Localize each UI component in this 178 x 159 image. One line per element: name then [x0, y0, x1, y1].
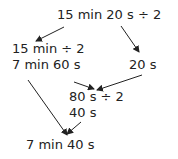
node-top: 15 min 20 s ÷ 2: [57, 7, 161, 22]
arrow-top-to-left: [36, 27, 64, 41]
node-middle-result: 40 s: [69, 105, 96, 120]
arrow-middle-to-bottom: [67, 122, 81, 134]
arrow-left-to-middle: [74, 82, 94, 89]
arrow-right-to-middle: [97, 75, 142, 90]
arrows-layer: [0, 0, 178, 159]
node-right: 20 s: [129, 57, 156, 72]
arrow-left-to-bottom: [28, 80, 67, 135]
node-bottom: 7 min 40 s: [26, 137, 95, 152]
arrow-top-to-right: [121, 26, 139, 52]
node-left-result: 7 min 60 s: [12, 57, 81, 72]
node-left-step: 15 min ÷ 2: [12, 41, 85, 56]
node-middle-step: 80 s ÷ 2: [69, 89, 124, 104]
